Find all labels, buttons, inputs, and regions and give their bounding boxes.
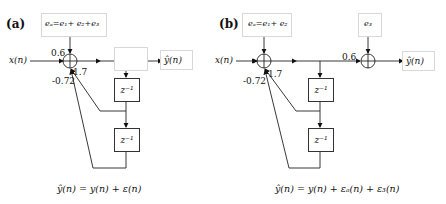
panel-a-input-label: x(n) [9, 56, 27, 65]
panel-a-gain-fb2: -0.72 [52, 77, 75, 86]
panel-b-error-label-2: e₃ [364, 20, 372, 28]
panel-a-error-label: eₐ=e₁+ e₂+e₃ [45, 20, 99, 28]
panel-b-equation: ŷ(n) = y(n) + εₐ(n) + ε₃(n) [275, 183, 399, 194]
panel-b-output-label: ŷ(n) [406, 57, 424, 66]
panel-b-delay-1: z⁻¹ [308, 78, 334, 102]
panel-b-gain-fb2: -0.72 [243, 77, 266, 86]
panel-b-delay-2: z⁻¹ [308, 128, 334, 152]
panel-a-equation: ŷ(n) = y(n) + ε(n) [57, 183, 141, 194]
panel-b-label: (b) [219, 17, 239, 31]
panel-a-empty-box [114, 47, 148, 71]
panel-b-error-label: eₐ=e₁+ e₂ [248, 20, 288, 28]
panel-b-gain-fb1: 1.7 [268, 70, 282, 79]
panel-a-delay-2: z⁻¹ [114, 128, 140, 152]
panel-a-label: (a) [6, 17, 25, 31]
panel-a-delay-1: z⁻¹ [114, 78, 140, 102]
panel-a-output-label: ŷ(n) [164, 56, 182, 65]
panel-b-gain-output: 0.6 [342, 53, 356, 62]
panel-b-input-label: x(n) [215, 56, 233, 65]
panel-a-gain-input: 0.6 [51, 49, 65, 58]
panel-a-gain-fb1: 1.7 [73, 68, 87, 77]
